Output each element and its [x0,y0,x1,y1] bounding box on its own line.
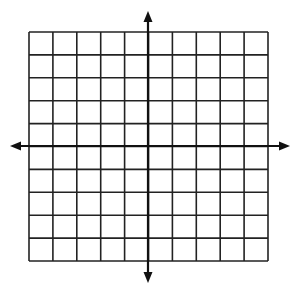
background [0,0,303,288]
coordinate-plane [0,0,303,288]
